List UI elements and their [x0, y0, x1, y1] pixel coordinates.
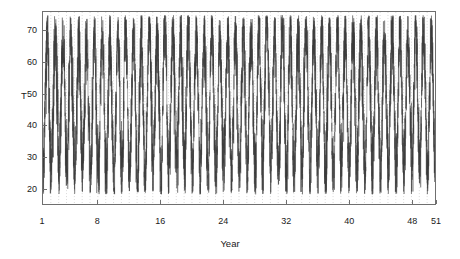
y-tick-label-40: 40 [0, 120, 37, 130]
y-tick-mark [43, 157, 47, 158]
x-tick-label-48: 48 [407, 216, 417, 226]
y-tick-mark [43, 62, 47, 63]
x-tick-mark [42, 200, 43, 204]
x-tick-label-16: 16 [155, 216, 165, 226]
y-tick-mark [43, 125, 47, 126]
x-tick-mark [286, 200, 287, 204]
x-tick-mark [349, 200, 350, 204]
x-tick-label-40: 40 [344, 216, 354, 226]
y-tick-label-30: 30 [0, 152, 37, 162]
y-tick-label-70: 70 [0, 25, 37, 35]
y-tick-label-20: 20 [0, 184, 37, 194]
x-tick-mark [223, 200, 224, 204]
y-tick-mark [43, 94, 47, 95]
x-tick-label-1: 1 [39, 216, 44, 226]
plot-area[interactable] [42, 11, 436, 205]
x-axis-label: Year [0, 238, 460, 249]
x-tick-mark [97, 200, 98, 204]
x-tick-label-51: 51 [431, 216, 441, 226]
x-tick-label-24: 24 [218, 216, 228, 226]
y-tick-label-60: 60 [0, 57, 37, 67]
x-tick-label-32: 32 [281, 216, 291, 226]
y-tick-mark [43, 189, 47, 190]
x-tick-mark [436, 200, 437, 204]
y-tick-label-50: 50 [0, 89, 37, 99]
x-tick-mark [160, 200, 161, 204]
y-tick-mark [43, 30, 47, 31]
data-series-T [43, 12, 435, 204]
x-tick-mark [412, 200, 413, 204]
x-tick-label-8: 8 [95, 216, 100, 226]
figure-canvas: T 203040506070 18162432404851 Year [0, 0, 460, 259]
